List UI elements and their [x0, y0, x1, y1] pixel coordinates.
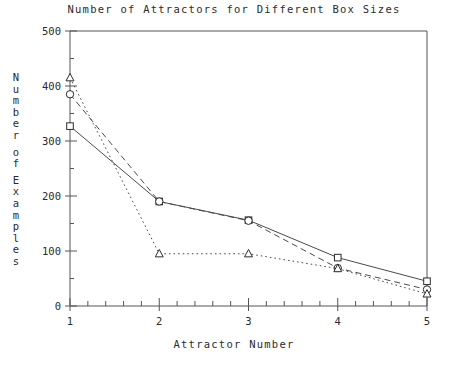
figure: Number of Attractors for Different Box S…: [0, 0, 468, 366]
marker-circle: [156, 198, 163, 205]
x-tick-label: 1: [67, 315, 73, 327]
marker-triangle: [155, 249, 163, 256]
marker-square: [424, 278, 431, 285]
chart-title: Number of Attractors for Different Box S…: [0, 3, 468, 15]
x-tick-label: 2: [156, 315, 162, 327]
y-axis-label-char: a: [6, 198, 26, 210]
series-square: [67, 123, 431, 285]
y-axis-label-char: p: [6, 221, 26, 233]
marker-triangle: [66, 73, 74, 80]
marker-square: [334, 254, 341, 261]
marker-circle: [245, 217, 252, 224]
series-circle: [66, 91, 430, 294]
y-axis-label: N u m b e r o f E x a m p l e s: [6, 72, 26, 268]
tick-marks: [65, 31, 427, 311]
y-axis-label-char: N: [6, 72, 26, 84]
y-tick-label: 400: [42, 80, 61, 92]
y-tick-label: 500: [42, 25, 61, 37]
x-tick-label: 4: [335, 315, 341, 327]
marker-circle: [66, 91, 73, 98]
figure-caption: [0, 360, 468, 366]
series-line-circle: [70, 94, 427, 289]
x-tick-label: 3: [245, 315, 251, 327]
series-triangle: [66, 73, 431, 297]
x-axis-label: Attractor Number: [0, 338, 468, 350]
y-axis-label-char: s: [6, 256, 26, 268]
y-tick-label: 100: [42, 245, 61, 257]
marker-triangle: [245, 249, 253, 256]
y-tick-label: 300: [42, 135, 61, 147]
axes: [70, 31, 427, 306]
y-tick-label: 200: [42, 190, 61, 202]
series-line-square: [70, 126, 427, 281]
plot-area: 010020030040050012345: [0, 0, 468, 366]
y-tick-label: 0: [55, 300, 61, 312]
series-line-triangle: [70, 78, 427, 294]
data-series: [66, 73, 431, 297]
tick-labels: 010020030040050012345: [42, 25, 430, 327]
x-tick-label: 5: [424, 315, 430, 327]
y-axis-label-char: f: [6, 158, 26, 170]
marker-square: [67, 123, 74, 130]
y-axis-label-char: r: [6, 130, 26, 142]
